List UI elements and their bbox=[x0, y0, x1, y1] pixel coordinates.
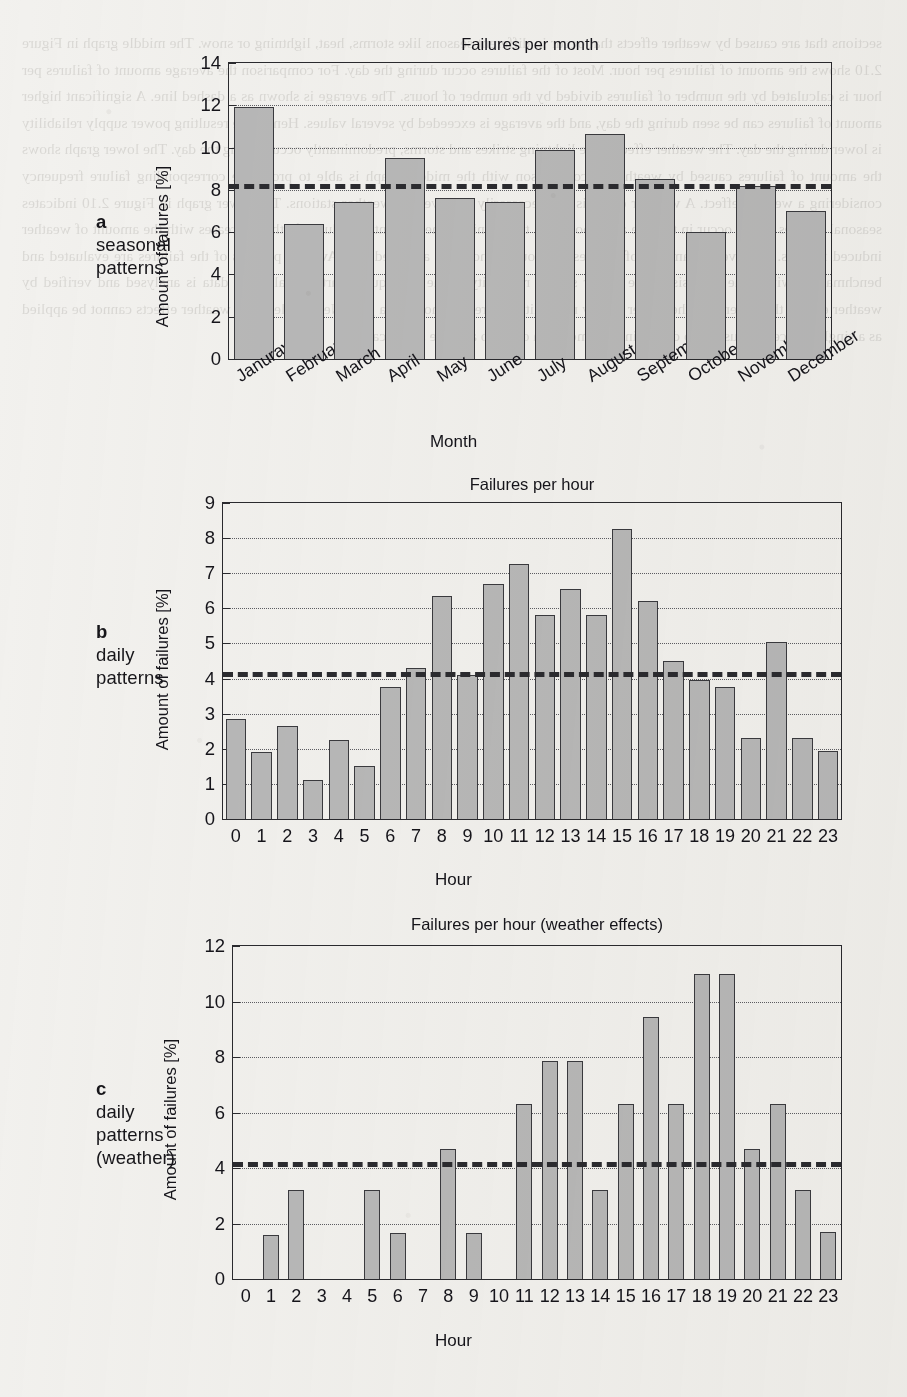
bar bbox=[354, 766, 375, 819]
figure-panel-b: b daily patterns Failures per hour Amoun… bbox=[0, 455, 907, 895]
chart-c-title: Failures per hour (weather effects) bbox=[232, 915, 842, 934]
x-axis-tick-label: 13 bbox=[561, 826, 581, 847]
bar bbox=[251, 752, 272, 819]
bar bbox=[715, 687, 736, 819]
x-axis-tick-label: 12 bbox=[535, 826, 555, 847]
chart-a-y-axis-label: Amount of failures [%] bbox=[153, 127, 172, 367]
y-axis-tick-label: 2 bbox=[215, 1212, 225, 1234]
x-axis-tick-label: 22 bbox=[792, 826, 812, 847]
average-dashed-line bbox=[233, 1162, 841, 1167]
x-axis-tick-label: 23 bbox=[818, 826, 838, 847]
y-axis-tick-label: 4 bbox=[215, 1157, 225, 1179]
x-axis-tick-label: 12 bbox=[540, 1286, 560, 1307]
x-axis-tick-label: 16 bbox=[641, 1286, 661, 1307]
x-axis-tick-label: 2 bbox=[291, 1286, 301, 1307]
y-axis-tick-label: 4 bbox=[211, 263, 221, 285]
gridline bbox=[223, 679, 841, 680]
average-dashed-line bbox=[223, 672, 841, 677]
x-axis-tick-label: 17 bbox=[666, 1286, 686, 1307]
bar bbox=[638, 601, 659, 819]
x-axis-tick-label: 20 bbox=[741, 826, 761, 847]
bar bbox=[226, 719, 247, 819]
y-axis-tick-label: 7 bbox=[205, 562, 215, 584]
x-axis-tick-label: 11 bbox=[510, 826, 529, 847]
bar bbox=[786, 211, 826, 359]
bar bbox=[466, 1233, 482, 1279]
y-axis-tick-label: 9 bbox=[205, 492, 215, 514]
x-axis-tick-label: 1 bbox=[257, 826, 267, 847]
y-axis-tick-mark bbox=[223, 819, 230, 820]
average-dashed-line bbox=[229, 184, 831, 189]
y-axis-tick-label: 5 bbox=[205, 632, 215, 654]
bar bbox=[457, 675, 478, 819]
gridline bbox=[223, 538, 841, 539]
gridline bbox=[223, 643, 841, 644]
y-axis-tick-mark bbox=[233, 946, 240, 947]
bar bbox=[440, 1149, 456, 1279]
y-axis-tick-mark bbox=[229, 105, 236, 106]
y-axis-tick-mark bbox=[233, 1057, 240, 1058]
y-axis-tick-label: 14 bbox=[200, 52, 221, 74]
gridline bbox=[229, 148, 831, 149]
bar bbox=[694, 974, 710, 1279]
y-axis-tick-label: 12 bbox=[204, 935, 225, 957]
bar bbox=[818, 751, 839, 819]
x-axis-tick-label: 7 bbox=[418, 1286, 428, 1307]
chart-a-x-axis-label: Month bbox=[0, 432, 907, 452]
x-axis-tick-label: 4 bbox=[342, 1286, 352, 1307]
bar bbox=[719, 974, 735, 1279]
bar bbox=[485, 202, 525, 360]
x-axis-tick-label: 18 bbox=[692, 1286, 712, 1307]
y-axis-tick-label: 10 bbox=[200, 136, 221, 158]
chart-b-y-axis-label: Amount of failures [%] bbox=[153, 550, 172, 790]
bar bbox=[668, 1104, 684, 1279]
y-axis-tick-label: 10 bbox=[204, 990, 225, 1012]
bar bbox=[585, 134, 625, 359]
bar bbox=[284, 224, 324, 359]
y-axis-tick-mark bbox=[233, 1113, 240, 1114]
bar bbox=[364, 1190, 380, 1279]
y-axis-tick-label: 6 bbox=[215, 1101, 225, 1123]
x-axis-tick-label: 3 bbox=[308, 826, 318, 847]
chart-c-y-axis-label: Amount of failures [%] bbox=[161, 1000, 180, 1240]
x-axis-tick-label: 6 bbox=[385, 826, 395, 847]
x-axis-tick-label: 19 bbox=[715, 826, 735, 847]
x-axis-tick-label: 11 bbox=[515, 1286, 534, 1307]
y-axis-tick-label: 8 bbox=[215, 1046, 225, 1068]
x-axis-tick-label: 4 bbox=[334, 826, 344, 847]
x-axis-tick-label: 5 bbox=[367, 1286, 377, 1307]
y-axis-tick-label: 0 bbox=[205, 808, 215, 830]
x-axis-tick-label: 8 bbox=[437, 826, 447, 847]
gridline bbox=[223, 714, 841, 715]
y-axis-tick-mark bbox=[233, 1279, 240, 1280]
x-axis-tick-label: 14 bbox=[590, 1286, 610, 1307]
x-axis-tick-label: 23 bbox=[818, 1286, 838, 1307]
bar bbox=[663, 661, 684, 819]
bar bbox=[277, 726, 298, 819]
bar bbox=[535, 615, 556, 819]
y-axis-tick-mark bbox=[223, 714, 230, 715]
gridline bbox=[233, 1057, 841, 1058]
bar bbox=[736, 186, 776, 359]
bar bbox=[586, 615, 607, 819]
x-axis-tick-label: 16 bbox=[638, 826, 658, 847]
bar bbox=[509, 564, 530, 819]
x-axis-tick-label: 8 bbox=[443, 1286, 453, 1307]
gridline bbox=[223, 573, 841, 574]
y-axis-tick-mark bbox=[223, 643, 230, 644]
bar bbox=[432, 596, 453, 819]
bar bbox=[390, 1233, 406, 1279]
y-axis-tick-label: 1 bbox=[205, 772, 215, 794]
bar bbox=[820, 1232, 836, 1279]
bar bbox=[303, 780, 324, 819]
y-axis-tick-label: 4 bbox=[205, 667, 215, 689]
y-axis-tick-label: 6 bbox=[205, 597, 215, 619]
x-axis-tick-label: 3 bbox=[317, 1286, 327, 1307]
x-axis-tick-label: 15 bbox=[612, 826, 632, 847]
bar bbox=[567, 1061, 583, 1279]
bar bbox=[329, 740, 350, 819]
x-axis-tick-label: 21 bbox=[767, 826, 787, 847]
bar bbox=[535, 150, 575, 359]
y-axis-tick-mark bbox=[233, 1224, 240, 1225]
y-axis-tick-mark bbox=[223, 573, 230, 574]
